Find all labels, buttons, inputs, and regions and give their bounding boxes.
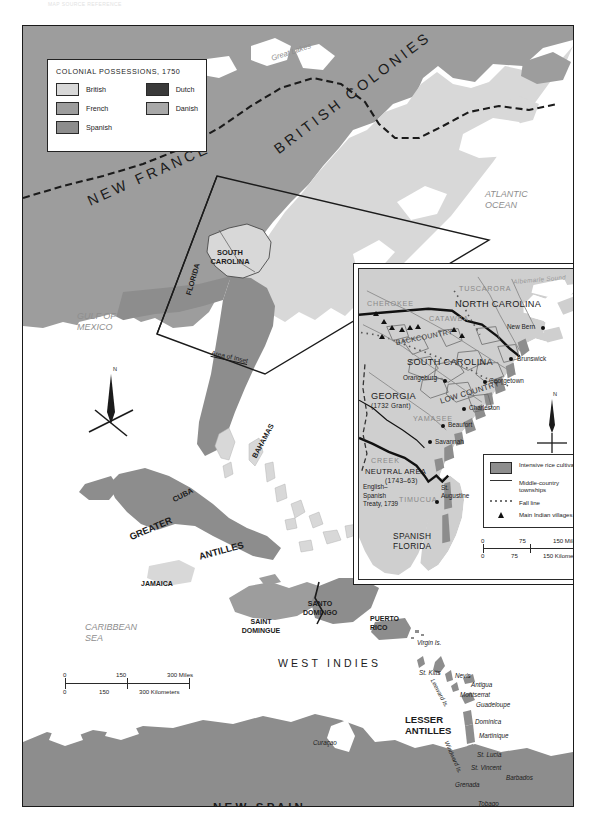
line-icon (489, 479, 513, 481)
city-dot-new-bern (541, 326, 545, 330)
inset-legend-item-rice: Intensive rice cultivation (489, 461, 574, 474)
legend-column-left: British French Spanish (56, 83, 146, 134)
inset-legend-label-townships: Middle-country townships (519, 479, 574, 494)
city-dot-georgetown (483, 380, 487, 384)
inset-compass-rose: N (535, 391, 569, 453)
top-caption: MAP SOURCE REFERENCE (48, 1, 122, 7)
city-dot-brunswick (509, 357, 513, 361)
inset-map: NORTH CAROLINASOUTH CAROLINAGEORGIASPANI… (353, 263, 574, 585)
inset-scale-miles-75: 75 (519, 537, 526, 544)
legend-item-danish: Danish (146, 102, 198, 115)
dotted-line-icon (489, 499, 513, 503)
indian-village-marker (459, 333, 465, 338)
inset-compass-north-label: N (553, 391, 557, 397)
inset-scale-bar: 0 75 150 Miles 0 75 150 Kilometers (481, 537, 574, 563)
indian-village-marker (407, 325, 413, 330)
legend-label-french: French (86, 104, 108, 113)
inset-scale-miles-150: 150 Miles (553, 537, 574, 544)
inset-inner-frame: NORTH CAROLINASOUTH CAROLINAGEORGIASPANI… (358, 268, 574, 580)
inset-legend: Intensive rice cultivation Middle-countr… (483, 454, 574, 528)
colonial-possessions-legend: COLONIAL POSSESSIONS, 1750 British Frenc… (47, 59, 207, 152)
scale-km-300: 300 Kilometers (139, 688, 180, 695)
scale-tick-c (189, 678, 190, 689)
indian-village-marker (451, 327, 457, 332)
legend-item-dutch: Dutch (146, 83, 198, 96)
inset-legend-label-villages: Main Indian villages (519, 511, 573, 518)
legend-label-spanish: Spanish (86, 123, 112, 132)
legend-label-dutch: Dutch (176, 85, 195, 94)
inset-legend-item-villages: Main Indian villages (489, 511, 574, 518)
scale-miles-300: 300 Miles (167, 671, 193, 678)
swatch-dutch (146, 83, 169, 96)
triangle-icon (489, 511, 513, 518)
city-dot-beaufort (441, 424, 445, 428)
legend-item-french: French (56, 102, 146, 115)
inset-legend-item-fallline: Fall line (489, 499, 574, 506)
scale-tick-b (127, 678, 128, 689)
inset-scale-km-150: 150 Kilometers (543, 552, 574, 559)
city-dot-savannah (428, 440, 432, 444)
inset-scale-miles-0: 0 (481, 537, 484, 544)
indian-village-marker (399, 327, 405, 332)
legend-column-right: Dutch Danish (146, 83, 198, 134)
legend-item-british: British (56, 83, 146, 96)
scale-miles-0: 0 (63, 671, 66, 678)
inset-scale-tick-b (530, 544, 531, 553)
inset-scale-km-75: 75 (511, 552, 518, 559)
indian-village-marker (379, 334, 385, 339)
swatch-french (56, 102, 79, 115)
swatch-british (56, 83, 79, 96)
main-scale-bar: 0 150 300 Miles 0 150 300 Kilometers (63, 671, 203, 699)
city-dot-charleston (462, 407, 466, 411)
inset-scale-km-0: 0 (481, 552, 484, 559)
legend-item-spanish: Spanish (56, 121, 146, 134)
legend-title: COLONIAL POSSESSIONS, 1750 (56, 67, 198, 76)
swatch-spanish (56, 121, 79, 134)
legend-label-danish: Danish (176, 104, 198, 113)
city-dot-orangeburg (443, 379, 447, 383)
scale-km-150: 150 (99, 688, 109, 695)
main-compass-rose: N (81, 366, 141, 444)
indian-village-marker (373, 311, 379, 316)
inset-scale-axis (483, 548, 574, 549)
inset-legend-item-townships: Middle-country townships (489, 479, 574, 494)
scale-km-0: 0 (63, 688, 66, 695)
map-frame: COLONIAL POSSESSIONS, 1750 British Frenc… (22, 25, 574, 807)
rice-swatch-icon (489, 461, 513, 474)
inset-legend-label-rice: Intensive rice cultivation (519, 461, 574, 468)
compass-north-label: N (113, 366, 117, 372)
city-dot-st-augustine (435, 500, 439, 504)
indian-village-marker (381, 319, 387, 324)
swatch-danish (146, 102, 169, 115)
indian-village-marker (415, 324, 421, 329)
indian-village-marker (389, 325, 395, 330)
scale-miles-150: 150 (116, 671, 126, 678)
legend-label-british: British (86, 85, 106, 94)
inset-legend-label-fallline: Fall line (519, 499, 540, 506)
